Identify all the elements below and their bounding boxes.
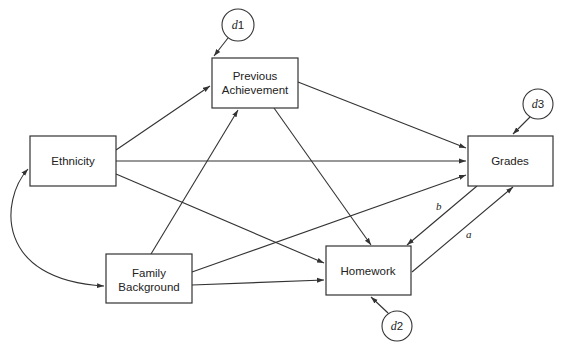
node-homework-label: Homework	[341, 265, 396, 277]
node-previous-achievement-label-line2: Achievement	[222, 84, 289, 96]
node-homework: Homework	[326, 246, 411, 295]
edge-ethnicity-to-previous-achievement	[116, 86, 210, 150]
node-family-background: Family Background	[106, 254, 192, 303]
node-previous-achievement: Previous Achievement	[212, 58, 298, 108]
disturbance-d3-label: d3	[532, 97, 544, 111]
disturbance-d1-label: d1	[232, 18, 244, 32]
edge-previous-achievement-to-homework	[274, 108, 371, 245]
edge-homework-to-grades-a	[412, 187, 513, 272]
edge-ethnicity-to-homework	[116, 174, 324, 263]
node-family-background-label-line1: Family	[132, 267, 166, 279]
node-ethnicity-label: Ethnicity	[51, 155, 95, 167]
edge-family-background-to-previous-achievement	[151, 110, 238, 254]
node-ethnicity: Ethnicity	[30, 136, 116, 186]
edge-previous-achievement-to-grades	[298, 82, 466, 148]
path-diagram: b a Previous Achievement Ethnicity Famil…	[0, 0, 563, 346]
node-grades: Grades	[468, 136, 553, 186]
disturbance-d1: d1	[222, 9, 254, 41]
node-grades-label: Grades	[491, 155, 529, 167]
disturbance-d2-label: d2	[391, 319, 403, 333]
edge-d1-to-previous-achievement	[214, 38, 228, 56]
node-family-background-label-line2: Background	[118, 281, 179, 293]
disturbance-d2: d2	[382, 311, 412, 341]
node-previous-achievement-label-line1: Previous	[233, 70, 278, 82]
path-label-a: a	[466, 228, 472, 240]
edge-d3-to-grades	[513, 117, 530, 134]
edge-family-background-to-homework	[192, 280, 324, 285]
path-label-b: b	[436, 200, 442, 212]
disturbance-d3: d3	[523, 89, 553, 119]
edge-d2-to-homework	[371, 297, 388, 313]
